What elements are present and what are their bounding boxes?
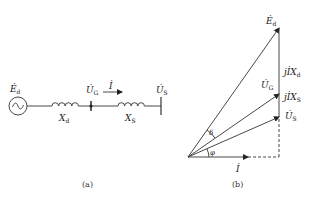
phasor-us-label: U̇S (285, 110, 297, 122)
phasor-ed-arrow (188, 28, 279, 157)
angle-phi-arc (207, 149, 209, 157)
node-g-dot (89, 104, 92, 107)
circuit-diagram: Ėd Xd U̇G İ XS U̇S (a) (9, 80, 168, 189)
phasor-ug-label: U̇G (261, 79, 274, 91)
drop-jixd-label: jİXd (282, 66, 301, 78)
bus-us-label: U̇S (156, 84, 168, 96)
sine-wave-icon (13, 103, 24, 109)
inductor-xs-icon (118, 103, 144, 106)
phasor-diagram: Ėd jİXd U̇G jİXS U̇S δ φ İ (b) (188, 15, 301, 189)
voltage-source (9, 97, 27, 115)
phasor-ed-label: Ėd (265, 15, 277, 27)
phasor-ug-arrow (188, 94, 279, 157)
figure: Ėd Xd U̇G İ XS U̇S (a) (0, 0, 309, 206)
angle-phi-label: φ (210, 149, 215, 157)
angle-delta-label: δ (209, 129, 213, 137)
reactance-xs-label: XS (124, 113, 136, 124)
phasor-i-label: İ (235, 163, 240, 174)
current-label: İ (108, 80, 113, 91)
caption-a: (a) (82, 180, 93, 189)
reactance-xd-label: Xd (58, 113, 69, 124)
drop-jixs-label: jİXS (282, 91, 301, 103)
node-ug-label: U̇G (86, 84, 99, 96)
inductor-xd-icon (52, 103, 78, 106)
caption-b: (b) (232, 180, 243, 189)
source-emf-label: Ėd (9, 83, 21, 95)
